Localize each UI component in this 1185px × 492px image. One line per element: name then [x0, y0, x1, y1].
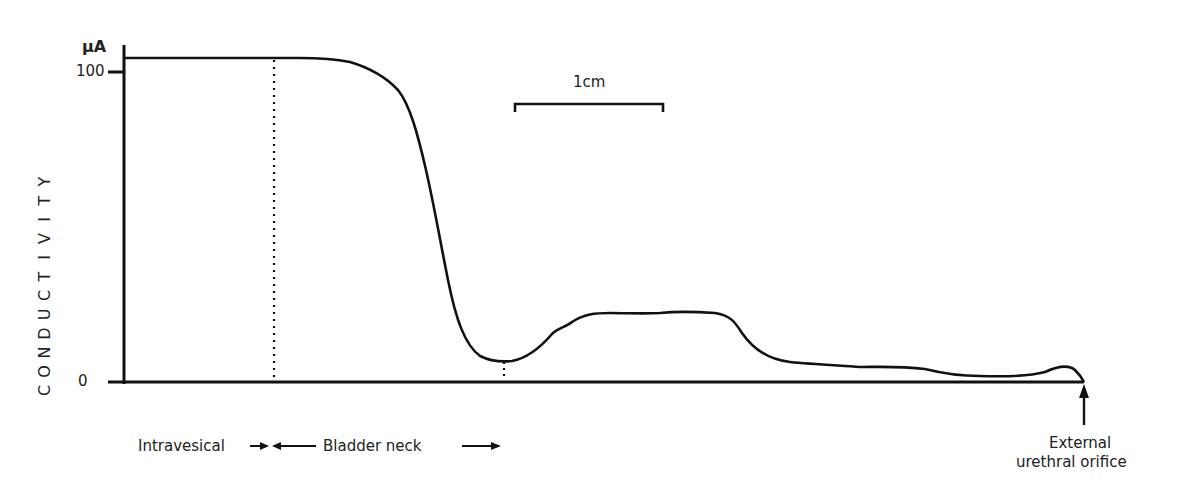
y-unit-label: µA — [82, 37, 106, 56]
arrow-left-icon — [272, 442, 281, 450]
y-tick-label-0: 0 — [78, 372, 88, 390]
orifice-arrow-icon — [1079, 384, 1089, 398]
arrow-right-icon — [260, 442, 269, 450]
scale-bar-label: 1cm — [573, 73, 605, 91]
region-label-bladder-neck: Bladder neck — [323, 437, 422, 455]
scale-bar — [515, 104, 663, 112]
y-axis-title: Y T I V I T C U D N O C — [24, 172, 64, 400]
y-title-char: C — [35, 371, 54, 411]
arrow-right-icon — [491, 442, 501, 450]
orifice-label-line2: urethral orifice — [1016, 453, 1127, 471]
orifice-label-line1: External — [1049, 434, 1111, 452]
y-tick-label-100: 100 — [76, 62, 105, 80]
conductivity-curve — [124, 58, 1084, 382]
region-label-intravesical: Intravesical — [138, 437, 225, 455]
